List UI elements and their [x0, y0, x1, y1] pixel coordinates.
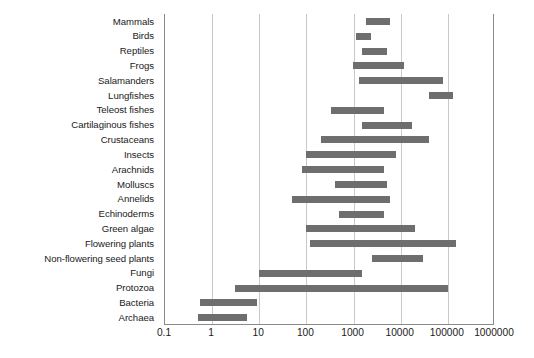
y-axis-label: Teleost fishes — [0, 105, 154, 115]
range-bar — [292, 196, 390, 203]
bar-row — [165, 44, 493, 59]
range-bar — [339, 211, 384, 218]
x-tick-label: 10 — [253, 327, 264, 339]
bar-row — [165, 118, 493, 133]
y-axis-label: Flowering plants — [0, 239, 154, 249]
bar-row — [165, 162, 493, 177]
x-tick-label: 0.1 — [157, 327, 171, 339]
range-bar — [321, 136, 429, 143]
bar-row — [165, 207, 493, 222]
y-axis-label: Reptiles — [0, 46, 154, 56]
bar-row — [165, 251, 493, 266]
y-axis-label: Crustaceans — [0, 135, 154, 145]
x-tick-label: 10000 — [386, 327, 414, 339]
range-bar — [331, 107, 384, 114]
range-bar — [302, 166, 385, 173]
y-axis-label: Green algae — [0, 224, 154, 234]
x-tick-label: 1000000 — [474, 327, 514, 339]
bar-row — [165, 295, 493, 310]
x-axis-tick-labels: 0.11101001000100001000001000000 — [164, 327, 494, 347]
bar-row — [165, 29, 493, 44]
range-bar — [335, 181, 387, 188]
bar-row — [165, 147, 493, 162]
bar-row — [165, 281, 493, 296]
bar-row — [165, 58, 493, 73]
x-tick-label: 100000 — [430, 327, 464, 339]
bar-row — [165, 266, 493, 281]
y-axis-label: Arachnids — [0, 165, 154, 175]
range-bar — [198, 314, 247, 321]
x-tick-label: 1 — [208, 327, 214, 339]
bar-row — [165, 221, 493, 236]
y-axis-label: Salamanders — [0, 76, 154, 86]
bar-row — [165, 177, 493, 192]
y-axis-label: Insects — [0, 150, 154, 160]
y-axis-label: Lungfishes — [0, 91, 154, 101]
range-bar — [306, 151, 396, 158]
range-bar — [353, 62, 405, 69]
range-bar — [356, 33, 371, 40]
y-axis-label: Annelids — [0, 194, 154, 204]
y-axis-label: Echinoderms — [0, 209, 154, 219]
range-bar — [200, 299, 257, 306]
bar-row — [165, 88, 493, 103]
bar-row — [165, 192, 493, 207]
range-bar — [235, 285, 448, 292]
genome-size-range-chart: MammalsBirdsReptilesFrogsSalamandersLung… — [0, 0, 534, 358]
range-bar — [259, 270, 362, 277]
y-axis-label: Bacteria — [0, 298, 154, 308]
y-axis-label: Non-flowering seed plants — [0, 254, 154, 264]
y-axis-label: Cartilaginous fishes — [0, 120, 154, 130]
y-axis-label: Archaea — [0, 313, 154, 323]
range-bar — [306, 225, 414, 232]
bar-row — [165, 132, 493, 147]
plot-area — [164, 14, 494, 325]
y-axis-label: Mammals — [0, 17, 154, 27]
bar-row — [165, 103, 493, 118]
range-bar — [310, 240, 456, 247]
y-axis-label: Molluscs — [0, 180, 154, 190]
bar-row — [165, 73, 493, 88]
range-bar — [359, 77, 443, 84]
y-axis-label: Birds — [0, 31, 154, 41]
x-tick-label: 1000 — [341, 327, 364, 339]
bar-row — [165, 14, 493, 29]
range-bar — [366, 18, 391, 25]
y-axis-label: Frogs — [0, 61, 154, 71]
range-bar — [372, 255, 423, 262]
range-bar — [429, 92, 453, 99]
x-tick-label: 100 — [297, 327, 314, 339]
range-bar — [362, 122, 412, 129]
y-axis-label: Protozoa — [0, 283, 154, 293]
y-axis-category-labels: MammalsBirdsReptilesFrogsSalamandersLung… — [0, 14, 158, 325]
y-axis-label: Fungi — [0, 268, 154, 278]
bar-row — [165, 236, 493, 251]
range-bar — [362, 48, 387, 55]
bar-row — [165, 310, 493, 325]
